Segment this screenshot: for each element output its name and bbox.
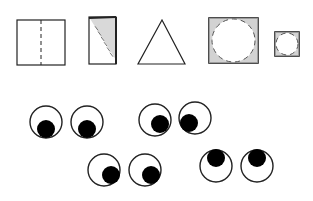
- pupil: [248, 149, 266, 167]
- googly-eye-icon: [200, 149, 232, 182]
- small-square-with-circle-corners-shaded-shape: [275, 32, 299, 56]
- googly-eye-pair: [139, 102, 211, 136]
- illustration-canvas: [0, 0, 313, 201]
- paper-folding-shapes-row: [17, 17, 299, 65]
- googly-eye-icon: [139, 104, 171, 136]
- googly-eye-pair: [30, 106, 103, 138]
- pupil: [151, 115, 169, 133]
- folded-rectangle-shaded-shape: [89, 17, 116, 64]
- pupil: [207, 149, 225, 167]
- googly-eye-icon: [179, 102, 211, 134]
- googly-eye-icon: [129, 154, 161, 186]
- pupil: [37, 120, 55, 138]
- corner-shading: [209, 18, 258, 63]
- pupil: [102, 166, 120, 184]
- square-with-circle-corners-shaded-shape: [209, 18, 258, 63]
- triangle-shape: [138, 20, 185, 64]
- googly-eye-icon: [88, 154, 120, 186]
- googly-eye-icon: [30, 106, 62, 138]
- googly-eyes-group: [30, 102, 273, 186]
- googly-eye-pair: [200, 149, 273, 182]
- pupil: [180, 114, 198, 132]
- corner-shading: [275, 32, 299, 56]
- square-with-fold-line-shape: [17, 20, 65, 65]
- pupil: [142, 166, 160, 184]
- googly-eye-pair: [88, 154, 161, 186]
- googly-eye-icon: [241, 149, 273, 182]
- pupil: [78, 120, 96, 138]
- googly-eye-icon: [71, 106, 103, 138]
